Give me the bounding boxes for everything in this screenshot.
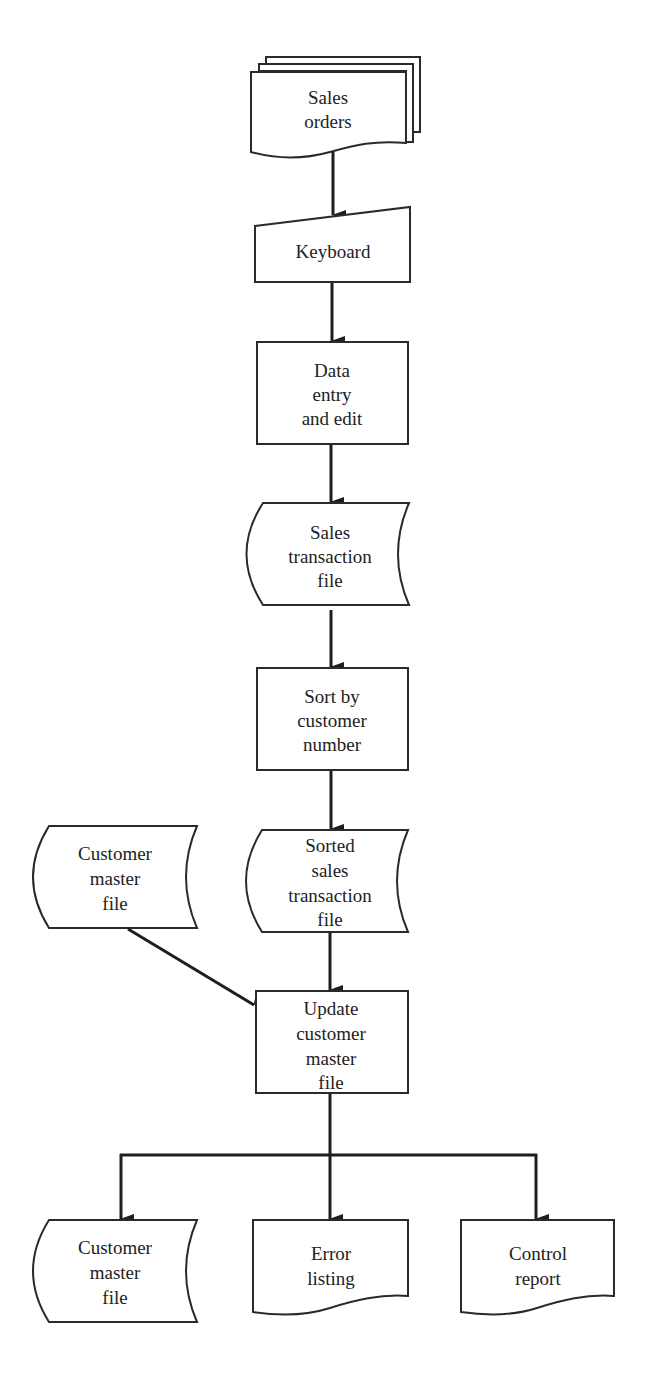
sort-label-2: customer — [297, 710, 367, 731]
sort-label-3: number — [303, 734, 362, 755]
node-error-listing[interactable]: Error listing — [253, 1220, 408, 1315]
cm-out-label-2: master — [90, 1262, 141, 1283]
sales-file-label-3: file — [317, 570, 342, 591]
node-control-report[interactable]: Control report — [461, 1220, 614, 1315]
cm-out-label-1: Customer — [78, 1237, 153, 1258]
sort-label-1: Sort by — [304, 686, 360, 707]
node-sales-orders[interactable]: Sales orders — [251, 57, 420, 158]
sales-orders-label-2: orders — [304, 111, 351, 132]
node-sales-transaction-file[interactable]: Sales transaction file — [247, 503, 410, 605]
node-keyboard[interactable]: Keyboard — [255, 207, 410, 282]
sorted-label-3: transaction — [288, 885, 372, 906]
sales-file-label-2: transaction — [288, 546, 372, 567]
sorted-label-2: sales — [312, 860, 349, 881]
node-customer-master-input[interactable]: Customer master file — [33, 826, 197, 928]
node-sorted-sales-file[interactable]: Sorted sales transaction file — [246, 830, 408, 932]
cm-in-label-1: Customer — [78, 843, 153, 864]
cm-in-label-2: master — [90, 868, 141, 889]
control-label-1: Control — [509, 1243, 567, 1264]
flowchart-canvas: Sales orders Keyboard Data entry and edi… — [0, 0, 651, 1377]
node-customer-master-output[interactable]: Customer master file — [33, 1220, 197, 1322]
keyboard-label: Keyboard — [296, 241, 371, 262]
sorted-label-1: Sorted — [305, 835, 355, 856]
sales-file-label-1: Sales — [310, 522, 350, 543]
cm-out-label-3: file — [102, 1287, 127, 1308]
update-label-3: master — [306, 1048, 357, 1069]
data-entry-label-1: Data — [314, 360, 350, 381]
error-label-1: Error — [311, 1243, 352, 1264]
edge-master-to-update — [128, 929, 254, 1005]
data-entry-label-3: and edit — [302, 408, 363, 429]
cm-in-label-3: file — [102, 893, 127, 914]
output-branch — [120, 1094, 537, 1219]
node-data-entry[interactable]: Data entry and edit — [257, 342, 408, 444]
sales-orders-label-1: Sales — [308, 87, 348, 108]
node-update[interactable]: Update customer master file — [256, 991, 408, 1093]
update-label-4: file — [318, 1072, 343, 1093]
data-entry-label-2: entry — [312, 384, 352, 405]
control-label-2: report — [515, 1268, 561, 1289]
update-label-1: Update — [304, 998, 359, 1019]
error-label-2: listing — [307, 1268, 355, 1289]
node-sort[interactable]: Sort by customer number — [257, 668, 408, 770]
sorted-label-4: file — [317, 909, 342, 930]
update-label-2: customer — [296, 1023, 366, 1044]
